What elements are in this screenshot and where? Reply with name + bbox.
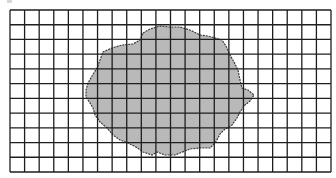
square-grid xyxy=(10,10,331,172)
grid-area-figure xyxy=(0,0,336,178)
